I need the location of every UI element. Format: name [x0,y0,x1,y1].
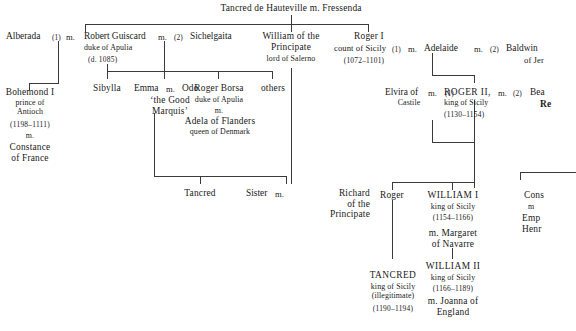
node-beatrice: Bea [530,87,545,98]
node-roger-i-dates: (1072–1101) [333,57,395,65]
node-bohemond-i-title: prince of Antioch [0,99,60,117]
node-elvira-of-castile-title: Castile [385,99,433,108]
node-william-ii-marriage: m. Joanna of England [412,296,494,317]
marriage-mark-adelaide-baldwin: m. [474,44,483,54]
node-bohemond-i: Bohemond I [0,87,60,98]
ordinal-beatrice: (2) [513,89,522,98]
node-adela-of-flanders: Adela of Flanders [176,116,264,127]
node-baldwin: Baldwin [506,43,538,54]
node-sibylla: Sibylla [82,83,132,94]
connector-gen3-bus-constance [520,172,576,173]
connector-gen3-bus-rogerii [392,182,474,183]
marriage-mark-bohemond: m. [0,132,60,141]
node-william-of-the-principate-title: lord of Salerno [246,55,336,64]
connector-gen3-bus-emma [154,176,286,177]
ordinal-sichelgaita: (2) [174,33,183,42]
node-constance-of-france: Constance of France [0,142,60,163]
node-sichelgaita: Sichelgaita [190,31,232,42]
marriage-mark-roger-i-adelaide: m. [408,44,417,54]
marriage-mark-robert-sichelgaita: m. [158,32,167,42]
connector-adelaide-descent [432,53,433,75]
node-others: others [250,83,296,94]
node-sister: Sister [246,188,267,199]
marriage-mark-roger-borsa: m. [186,107,252,116]
ordinal-roger-i: (1) [392,45,401,54]
connector-gen2-bus-robert [107,71,272,72]
node-emma: Emma [134,83,158,94]
connector-william-i-descent [452,248,453,259]
node-tancred-king: TANCRED [360,270,426,281]
marriage-mark-alberada: m. [66,32,75,42]
node-robert-guiscard-dates: (d. 1085) [88,56,148,64]
node-robert-guiscard: Robert Guiscard [84,31,146,42]
node-alberada: Alberada [6,31,40,42]
node-roger-borsa-title: duke of Apulia [186,96,252,105]
family-tree-diagram: Tancred de Hauteville m. Fressenda Alber… [0,0,576,331]
connector-sichelgaita-descent [164,41,165,71]
marriage-mark-sister-richard: m. [275,189,284,199]
node-roger-ii: ROGER II, [444,87,491,98]
connector-gen3-drop-tancred [200,176,201,184]
connector-roger-ii-drop [474,75,475,83]
node-roger-ii-title: king of Sicily [444,99,504,108]
connector-william-principate-descent [291,68,292,184]
node-adela-of-flanders-title: queen of Denmark [176,128,264,137]
marriage-mark-constance: m [528,203,568,212]
node-roger-ii-dates: (1130–1154) [444,111,506,119]
node-william-ii-title: king of Sicily [418,274,488,283]
node-william-i-marriage: m. Margaret of Navarre [414,228,492,249]
node-bohemond-i-dates: (1198–1111) [0,121,60,129]
connector-roger-ii-children-bus [432,142,474,143]
node-william-ii: WILLIAM II [418,261,488,272]
connector-emma-descent [154,113,155,176]
node-william-i-dates: (1154–1166) [420,214,486,222]
connector-root-drop [291,15,292,24]
connector-roger-ii-descent [432,120,433,142]
node-william-i-title: king of Sicily [420,203,486,212]
marriage-mark-emma-odo: m. [166,84,175,94]
node-robert-guiscard-title: duke of Apulia [84,44,156,53]
node-tancred-son: Tancred [172,188,228,199]
node-emperor-henry: Emp Henr [522,213,576,234]
connector-robert-descent [107,64,108,71]
node-beatrice-title: Re [540,99,551,110]
root-node-tancred-de-hauteville: Tancred de Hauteville m. Fressenda [216,3,366,14]
node-adelaide: Adelaide [424,43,458,54]
node-elvira-of-castile: Elvira of [385,87,418,98]
node-richard-of-the-principate: Richard of the Principate [290,188,370,220]
node-william-ii-dates: (1166–1189) [418,285,488,293]
connector-alberada-bus [29,83,59,84]
marriage-mark-elvira-rogerii: m. [428,88,437,98]
node-roger: Roger [366,190,418,201]
marriage-mark-roger-ii-beatrice: m. [498,88,507,98]
ordinal-alberada: (1) [52,33,61,42]
connector-gen2-drop-others [272,71,273,79]
node-roger-i-title: count of Sicily [334,44,386,54]
connector-gen3-drop-sister [286,176,287,184]
connector-roger-ii-children-drop [474,142,475,182]
ordinal-baldwin: (2) [490,45,499,54]
connector-roger-descent [392,200,393,259]
node-constance: Cons [524,190,576,201]
connector-gen2-drop-rogerborsa [218,71,219,79]
connector-gen2-drop-sibylla [107,71,108,79]
node-roger-i: Roger I [338,31,400,42]
connector-gen1-bus [85,24,369,25]
connector-gen2-drop-emma [164,71,165,79]
connector-gen3-drop-williami [452,182,453,190]
connector-roger-ii-bus [432,75,474,76]
node-baldwin-title: of Jer [524,56,544,66]
connector-gen3-drop-constance [520,172,521,180]
node-roger-borsa: Roger Borsa [188,83,250,94]
connector-gen3-drop-roger [392,182,393,190]
node-william-of-the-principate: William of the Principate [246,31,336,52]
connector-alberada-descent [58,41,59,83]
node-william-i: WILLIAM I [420,190,486,201]
